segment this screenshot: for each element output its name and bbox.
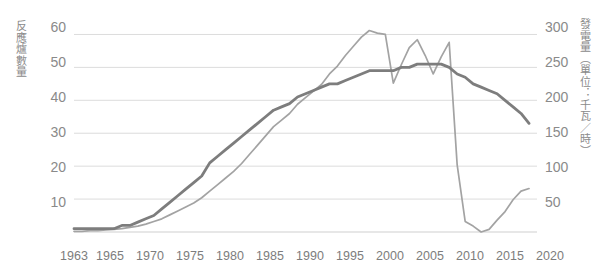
left-axis-tick: 10 (40, 195, 66, 209)
plot-svg (74, 18, 537, 232)
x-axis-tick: 1995 (330, 249, 370, 263)
x-axis-tick: 1990 (290, 249, 330, 263)
left-axis-title: 反應爐數量 (14, 20, 27, 78)
right-axis-tick: 300 (545, 20, 575, 34)
right-axis-title: 發電量（單位：千瓦／時） (578, 18, 591, 156)
gridlines (74, 34, 537, 199)
x-axis-tick: 2000 (370, 249, 410, 263)
x-axis-tick: 1970 (130, 249, 170, 263)
x-axis-tick: 2020 (530, 249, 570, 263)
left-axis-tick: 50 (40, 55, 66, 69)
right-axis-tick: 100 (545, 160, 575, 174)
plot-area (74, 18, 537, 232)
x-axis-tick: 2005 (410, 249, 450, 263)
right-axis-tick: 50 (545, 195, 575, 209)
x-axis-tick: 1965 (90, 249, 130, 263)
series-line-reactors (74, 64, 529, 229)
x-axis-tick: 1963 (54, 249, 94, 263)
right-axis-tick: 150 (545, 125, 575, 139)
series-line-generation (74, 31, 529, 232)
left-axis-tick: 40 (40, 90, 66, 104)
left-axis-tick: 20 (40, 160, 66, 174)
left-axis-tick: 30 (40, 125, 66, 139)
left-axis-tick: 60 (40, 20, 66, 34)
right-axis-tick: 250 (545, 55, 575, 69)
x-axis-tick: 1980 (210, 249, 250, 263)
right-axis-tick: 200 (545, 90, 575, 104)
x-axis-tick: 2015 (490, 249, 530, 263)
x-axis-tick: 2010 (450, 249, 490, 263)
line-chart: 反應爐數量 發電量（單位：千瓦／時） 60 50 40 30 20 10 300… (0, 0, 611, 275)
x-axis-tick: 1975 (170, 249, 210, 263)
x-axis-tick: 1985 (250, 249, 290, 263)
